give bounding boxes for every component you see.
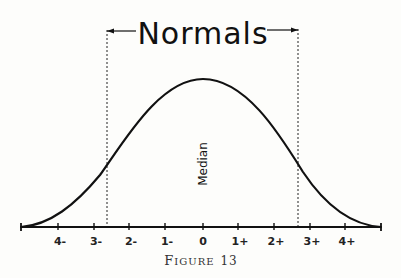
caption-rest: IGURE bbox=[174, 256, 214, 267]
caption-number: 13 bbox=[220, 254, 237, 268]
normals-left-arrow bbox=[107, 29, 136, 34]
tick-label-0: 0 bbox=[199, 235, 207, 248]
caption-initial: F bbox=[164, 253, 174, 268]
tick-label-3-minus: 3- bbox=[90, 235, 102, 248]
figure-13: Normals 4- bbox=[0, 0, 401, 278]
tick-label-3-plus: 3+ bbox=[304, 235, 321, 248]
tick-label-4-plus: 4+ bbox=[339, 235, 356, 248]
tick-label-1-minus: 1- bbox=[161, 235, 173, 248]
tick-label-1-plus: 1+ bbox=[232, 235, 249, 248]
tick-label-4-minus: 4- bbox=[54, 235, 66, 248]
tick-label-2-plus: 2+ bbox=[268, 235, 285, 248]
figure-caption: FIGURE13 bbox=[164, 253, 238, 268]
normals-right-arrow bbox=[267, 28, 298, 33]
normal-curve-diagram: Normals 4- bbox=[0, 0, 401, 278]
normals-title: Normals bbox=[137, 16, 268, 51]
tick-label-2-minus: 2- bbox=[125, 235, 137, 248]
median-label: Median bbox=[196, 142, 210, 186]
